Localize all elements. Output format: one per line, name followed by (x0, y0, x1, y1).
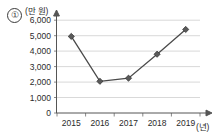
y-axis-arrow (54, 10, 60, 16)
x-axis-ticks-group (57, 113, 200, 117)
data-point-marker (97, 78, 103, 84)
y-axis-tick-label: 1,000 (30, 93, 52, 103)
x-axis-tick-label: 2019 (176, 118, 195, 128)
line-chart-svg: 01,0002,0003,0004,0005,0006,000 20152016… (0, 0, 221, 137)
series-markers-group (68, 26, 189, 84)
x-axis-tick-label: 2016 (90, 118, 109, 128)
x-axis-arrow (206, 110, 212, 116)
series-line (71, 30, 185, 82)
y-axis-tick-label: 0 (46, 108, 51, 118)
x-axis-tick-label: 2018 (148, 118, 167, 128)
y-axis-tick-label: 6,000 (30, 15, 52, 25)
y-axis-tick-label: 4,000 (30, 46, 52, 56)
y-axis-tick-label: 3,000 (30, 62, 52, 72)
y-axis-tick-labels-group: 01,0002,0003,0004,0005,0006,000 (30, 15, 52, 118)
plot-area: 01,0002,0003,0004,0005,0006,000 20152016… (0, 0, 221, 137)
x-axis-tick-label: 2015 (62, 118, 81, 128)
chart-screenshot: ① (만 원) (년) 01,0002,0003,0004,0005,0006,… (0, 0, 221, 137)
y-axis-tick-label: 2,000 (30, 77, 52, 87)
gridlines-group (57, 20, 200, 97)
x-axis-tick-labels-group: 20152016201720182019 (62, 118, 196, 128)
x-axis-tick-label: 2017 (119, 118, 138, 128)
y-axis-tick-label: 5,000 (30, 31, 52, 41)
